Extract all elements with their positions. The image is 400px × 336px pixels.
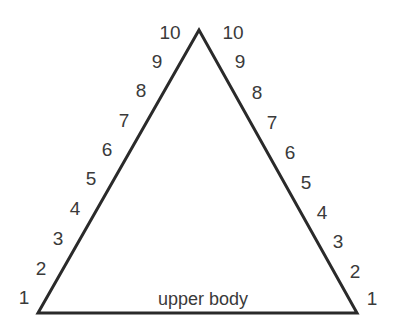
triangle-diagram: 1 2 3 4 5 6 7 8 9 10 1 2 3 4 5 6 7 8 9 1… [0, 0, 400, 336]
left-label-3: 3 [53, 228, 64, 249]
left-scale: 1 2 3 4 5 6 7 8 9 10 [19, 22, 181, 308]
right-label-2: 2 [350, 261, 361, 282]
left-label-9: 9 [152, 51, 163, 72]
left-label-10: 10 [159, 22, 180, 43]
right-label-3: 3 [333, 231, 344, 252]
right-label-1: 1 [367, 288, 378, 309]
left-label-2: 2 [36, 258, 47, 279]
left-label-7: 7 [119, 110, 130, 131]
right-label-9: 9 [235, 51, 246, 72]
right-label-6: 6 [285, 142, 296, 163]
left-label-4: 4 [70, 198, 81, 219]
left-label-5: 5 [86, 168, 97, 189]
left-label-6: 6 [102, 139, 113, 160]
base-label: upper body [158, 289, 248, 309]
right-label-7: 7 [267, 112, 278, 133]
left-label-1: 1 [19, 287, 30, 308]
right-label-8: 8 [252, 82, 263, 103]
right-label-4: 4 [317, 202, 328, 223]
right-scale: 1 2 3 4 5 6 7 8 9 10 [222, 22, 377, 309]
right-label-10: 10 [222, 22, 243, 43]
left-label-8: 8 [136, 80, 147, 101]
right-label-5: 5 [301, 172, 312, 193]
